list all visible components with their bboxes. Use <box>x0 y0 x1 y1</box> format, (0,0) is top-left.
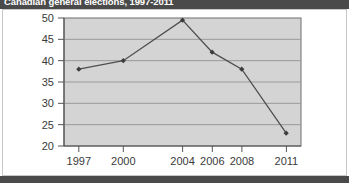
x-axis-ticks <box>79 146 287 152</box>
chart-figure: Canadian general elections, 1997-2011 <box>0 0 349 183</box>
chart-card: 50 45 40 35 30 25 20 1997 2000 <box>2 9 347 176</box>
x-axis-labels: 1997 2000 2004 2006 2008 2011 <box>67 155 299 167</box>
y-tick-label-45: 45 <box>42 33 54 45</box>
y-axis-ticks <box>58 18 64 146</box>
y-tick-label-35: 35 <box>42 76 54 88</box>
y-tick-label-40: 40 <box>42 55 54 67</box>
footer-band <box>0 176 349 183</box>
line-chart-plot: 50 45 40 35 30 25 20 1997 2000 <box>3 10 346 175</box>
y-axis-labels: 50 45 40 35 30 25 20 <box>42 12 54 152</box>
chart-title-band: Canadian general elections, 1997-2011 <box>0 0 349 9</box>
x-tick-label-1997: 1997 <box>67 155 91 167</box>
x-tick-label-2011: 2011 <box>275 155 299 167</box>
y-tick-label-25: 25 <box>42 119 54 131</box>
y-tick-label-30: 30 <box>42 97 54 109</box>
x-tick-label-2008: 2008 <box>230 155 254 167</box>
y-tick-label-20: 20 <box>42 140 54 152</box>
y-tick-label-50: 50 <box>42 12 54 24</box>
chart-title: Canadian general elections, 1997-2011 <box>4 0 174 7</box>
x-tick-label-2000: 2000 <box>111 155 135 167</box>
x-tick-label-2004: 2004 <box>170 155 194 167</box>
x-tick-label-2006: 2006 <box>200 155 224 167</box>
